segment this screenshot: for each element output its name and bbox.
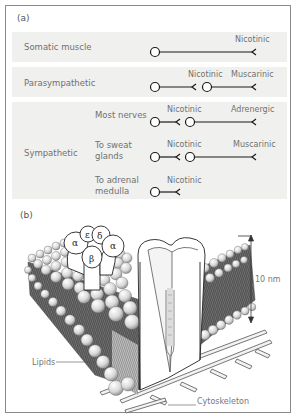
subunit-beta: β (89, 254, 94, 264)
neuron-pathway-diagrams: α ε δ β α 10 nm Lipids Cytoskeleto (0, 0, 301, 420)
adrenal-medulla-neuron (151, 188, 181, 197)
parasympathetic-neurons (151, 83, 257, 92)
lipids-callout: Lipids (32, 358, 55, 367)
panel-b-label: (b) (20, 210, 33, 220)
subunit-alpha-2: α (110, 241, 116, 251)
subunit-epsilon: ε (85, 230, 90, 240)
somatic-neuron (151, 48, 257, 57)
subunit-alpha-1: α (72, 238, 78, 248)
sweat-glands-neurons (151, 153, 257, 162)
subunit-delta: δ (97, 231, 102, 241)
scale-label: 10 nm (255, 275, 281, 284)
most-nerves-neurons (151, 118, 257, 127)
cytoskeleton-callout: Cytoskeleton (197, 397, 249, 406)
membrane-illustration: α ε δ β α 10 nm Lipids Cytoskeleto (25, 226, 281, 413)
ion-channel-cross-section (138, 238, 205, 390)
